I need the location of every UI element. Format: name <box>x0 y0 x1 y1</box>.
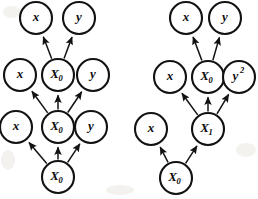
node-subscript: 0 <box>209 75 214 85</box>
graph-node[interactable]: y <box>77 59 109 91</box>
node-label: x <box>32 9 40 24</box>
graph-node[interactable]: x <box>170 2 202 34</box>
nodes-layer: xyxX0yxX0yX0xyxX0y2xX1X0 <box>0 2 255 194</box>
graph-node[interactable]: X0 <box>160 162 192 194</box>
graph-edge <box>213 37 220 60</box>
node-subscript: 0 <box>177 176 182 186</box>
graph-node[interactable]: y <box>63 2 95 34</box>
graph-edge <box>160 147 168 162</box>
diagram-root: xyxX0yxX0yX0xyxX0y2xX1X0 <box>0 0 258 199</box>
node-label: y <box>74 9 82 24</box>
node-label: x <box>182 9 190 24</box>
graph-edge <box>182 93 198 115</box>
node-label: x <box>12 118 20 133</box>
node-label: y <box>231 68 239 83</box>
node-superscript: 2 <box>239 65 245 75</box>
node-subscript: 0 <box>59 73 64 83</box>
edges-layer <box>29 37 229 164</box>
graph-canvas: xyxX0yxX0yX0xyxX0y2xX1X0 <box>0 0 258 199</box>
graph-node[interactable]: X0 <box>42 161 74 193</box>
graph-edge <box>186 146 197 163</box>
node-label: x <box>16 66 24 81</box>
graph-node[interactable]: y2 <box>223 61 255 93</box>
graph-node[interactable]: X1 <box>192 113 224 145</box>
graph-edge <box>64 37 72 59</box>
graph-edge <box>29 142 47 163</box>
node-label: y <box>220 9 228 24</box>
graph-node[interactable]: X0 <box>192 61 224 93</box>
graph-edge <box>68 92 82 113</box>
graph-edge <box>68 144 80 163</box>
graph-edge <box>193 37 202 61</box>
graph-edge <box>32 91 48 113</box>
graph-node[interactable]: x <box>0 111 32 143</box>
graph-node[interactable]: y <box>209 2 241 34</box>
graph-node[interactable]: x <box>20 2 52 34</box>
graph-node[interactable]: x <box>135 113 167 145</box>
graph-edge <box>43 37 51 59</box>
node-label: x <box>147 120 155 135</box>
node-label: x <box>166 68 174 83</box>
graph-node[interactable]: X0 <box>42 111 74 143</box>
node-subscript: 0 <box>59 175 64 185</box>
graph-node[interactable]: y <box>75 111 107 143</box>
node-label: y <box>88 66 96 81</box>
graph-node[interactable]: x <box>4 59 36 91</box>
graph-node[interactable]: x <box>154 61 186 93</box>
node-label: y <box>86 118 94 133</box>
graph-edge <box>217 94 229 114</box>
node-subscript: 0 <box>59 125 64 135</box>
graph-node[interactable]: X0 <box>42 59 74 91</box>
node-subscript: 1 <box>209 127 213 137</box>
